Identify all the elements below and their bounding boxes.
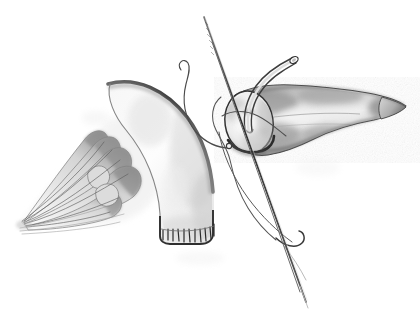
suture-knot xyxy=(226,143,231,148)
illustration-canvas: Pancreaticojejunostomy anastomosis Penci… xyxy=(0,0,420,324)
mesentery-apex-smudge xyxy=(16,220,32,230)
surgical-illustration-svg xyxy=(0,0,420,324)
